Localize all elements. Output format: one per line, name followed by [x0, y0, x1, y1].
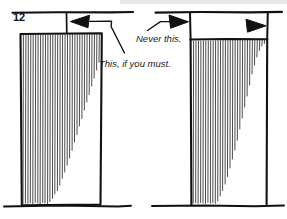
right-box-left-edge — [190, 13, 191, 40]
left-panel-group — [4, 12, 133, 206]
right-ceiling-line — [156, 12, 283, 13]
right-ground-line — [152, 205, 284, 206]
right-box-bottom-edge — [190, 39, 267, 40]
right-hatching — [193, 40, 264, 204]
page-number: 12 — [13, 11, 25, 23]
annotation-this-if-you-must: This, if you must. — [99, 58, 171, 69]
right-outer-arrow-head — [169, 15, 189, 28]
right-slab-left-edge — [191, 40, 192, 205]
right-inner-arrow-head — [246, 19, 266, 32]
figure-page: 12 Never this. This, if you must. — [0, 0, 287, 219]
right-box-right-edge — [267, 13, 268, 40]
left-arrow-head — [71, 15, 90, 28]
left-ground-line — [4, 206, 131, 207]
right-slab-right-edge — [267, 40, 268, 205]
right-outer-arrow-leader — [148, 22, 170, 31]
annotation-never-this: Never this. — [136, 33, 181, 44]
left-ceiling-line — [13, 12, 134, 13]
left-hatching — [23, 34, 99, 204]
